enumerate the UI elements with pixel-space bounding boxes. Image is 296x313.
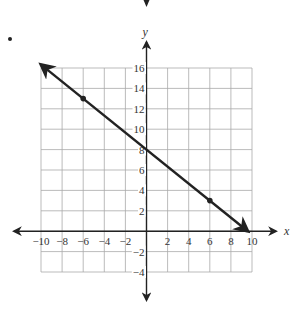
- y-tick-label: 10: [134, 123, 146, 135]
- y-tick-label: 14: [134, 82, 146, 94]
- x-tick-label: 10: [247, 235, 259, 247]
- data-point: [80, 96, 86, 102]
- x-tick-label: −6: [77, 235, 89, 247]
- y-tick-label: 2: [139, 205, 145, 217]
- top-arrow-fragment: [144, 0, 150, 7]
- y-tick-label: 4: [139, 184, 145, 196]
- x-axis-label: x: [283, 224, 290, 238]
- data-point: [207, 198, 213, 204]
- y-tick-label: 6: [139, 164, 145, 176]
- x-tick-label: 2: [165, 235, 171, 247]
- x-tick-label: 6: [207, 235, 213, 247]
- x-tick-label: −4: [98, 235, 110, 247]
- x-tick-label: 8: [228, 235, 234, 247]
- x-tick-label: −10: [32, 235, 50, 247]
- y-tick-label: 16: [134, 62, 146, 74]
- x-tick-label: −2: [120, 235, 132, 247]
- x-tick-label: −8: [56, 235, 68, 247]
- y-tick-label: −4: [133, 266, 145, 278]
- x-tick-label: 4: [186, 235, 192, 247]
- y-axis-label: y: [142, 25, 149, 39]
- y-tick-label: −2: [133, 246, 145, 258]
- line-graph: xy−10−8−6−4−2246810−4−2246810121416: [0, 0, 296, 313]
- y-tick-label: 12: [134, 103, 145, 115]
